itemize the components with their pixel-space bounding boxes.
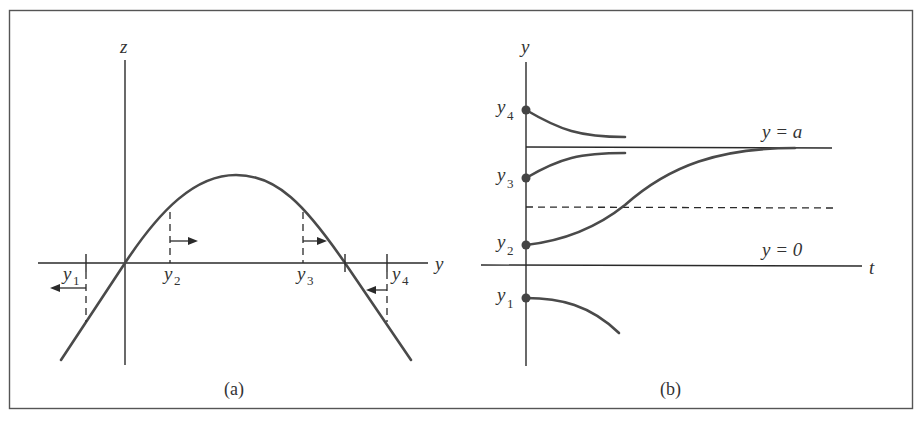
- b-label-y1: y 1: [495, 284, 514, 311]
- figure-frame: [10, 11, 913, 409]
- initial-point-y1: [522, 294, 531, 303]
- t-axis: [481, 265, 862, 266]
- label-y3: y 3: [295, 263, 314, 288]
- svg-text:2: 2: [507, 243, 514, 258]
- initial-point-y2: [522, 241, 531, 250]
- b-label-y3: y 3: [495, 164, 514, 191]
- svg-text:4: 4: [507, 108, 514, 123]
- svg-text:y: y: [390, 263, 401, 284]
- svg-text:y: y: [495, 96, 506, 117]
- panel-a: z y y: [38, 36, 444, 400]
- arrow-right-y2-icon: [170, 237, 198, 245]
- label-y1: y 1: [61, 263, 80, 288]
- rate-curve: [61, 175, 411, 360]
- b-label-y2: y 2: [495, 231, 514, 258]
- b-label-y4: y 4: [495, 96, 514, 123]
- z-axis-label: z: [119, 36, 128, 57]
- figure: z y y: [0, 0, 917, 422]
- solution-y2: [526, 148, 795, 245]
- svg-text:2: 2: [174, 273, 181, 288]
- svg-text:4: 4: [402, 273, 409, 288]
- svg-text:3: 3: [307, 273, 314, 288]
- arrow-right-y3-icon: [303, 237, 327, 245]
- panel-b: y t y = a y = 0 y 4 y 3 y 2: [481, 36, 875, 400]
- svg-text:y: y: [495, 231, 506, 252]
- equilibrium-0-label: y = 0: [760, 239, 803, 260]
- solution-y1: [526, 298, 619, 333]
- svg-text:1: 1: [507, 296, 514, 311]
- svg-text:1: 1: [73, 273, 80, 288]
- arrow-left-y4-icon: [366, 286, 387, 294]
- inflection-dashed-line: [526, 207, 833, 208]
- label-y4: y 4: [390, 263, 409, 288]
- svg-text:3: 3: [507, 176, 514, 191]
- initial-point-y4: [522, 106, 531, 115]
- svg-text:y: y: [495, 164, 506, 185]
- solution-y4: [526, 110, 625, 137]
- svg-text:y: y: [61, 263, 72, 284]
- svg-text:y: y: [495, 284, 506, 305]
- svg-text:y: y: [162, 263, 173, 284]
- arrow-left-y1-icon: [50, 284, 86, 292]
- caption-b: (b): [660, 379, 681, 400]
- caption-a: (a): [224, 379, 244, 400]
- equilibrium-a-label: y = a: [760, 121, 802, 142]
- b-y-axis-label: y: [519, 36, 530, 57]
- initial-point-y3: [522, 174, 531, 183]
- solution-y3: [526, 153, 625, 178]
- t-axis-label: t: [869, 257, 875, 278]
- y-axis-label: y: [433, 253, 444, 274]
- label-y2: y 2: [162, 263, 181, 288]
- svg-text:y: y: [295, 263, 306, 284]
